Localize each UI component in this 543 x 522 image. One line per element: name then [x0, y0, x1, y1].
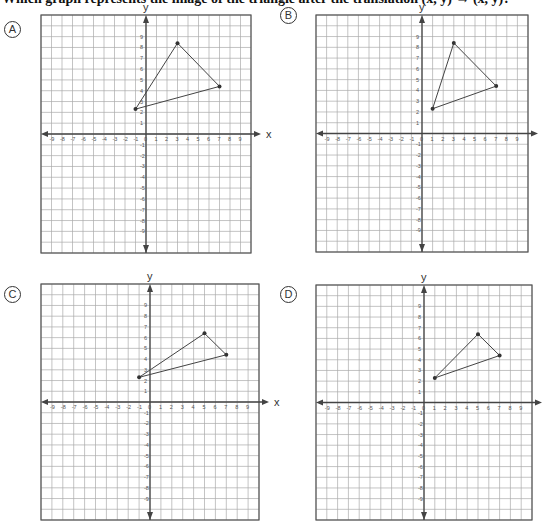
y-tick-label: -4 — [416, 174, 421, 180]
y-tick-label: 6 — [140, 66, 143, 72]
coordinate-grid: xy-9-8-7-6-5-4-3-2-10123456789987654321-… — [41, 15, 251, 253]
y-tick-label: 8 — [418, 314, 421, 320]
y-tick-label: -1 — [418, 410, 423, 416]
y-tick-label: -6 — [144, 463, 149, 469]
y-tick-label: 7 — [416, 55, 419, 61]
vertex-point — [134, 107, 138, 111]
x-tick-label: -1 — [409, 136, 414, 142]
x-tick-label: -8 — [336, 405, 341, 411]
x-tick-label: 8 — [508, 405, 511, 411]
y-tick-label: -7 — [418, 474, 423, 480]
y-tick-label: 2 — [416, 109, 419, 115]
y-tick-label: 8 — [140, 44, 143, 50]
arrow-right-icon — [254, 131, 261, 137]
vertex-point — [224, 353, 228, 357]
x-tick-label: 5 — [197, 136, 200, 142]
x-tick-label: 3 — [452, 136, 455, 142]
y-tick-label: -9 — [416, 227, 421, 233]
y-tick-label: 9 — [140, 34, 143, 40]
arrow-right-icon — [531, 131, 538, 137]
y-tick-label: 6 — [418, 335, 421, 341]
x-tick-label: 1 — [155, 136, 158, 142]
x-tick-label: -9 — [325, 405, 330, 411]
y-tick-label: 4 — [140, 88, 143, 94]
x-tick-label: 1 — [431, 136, 434, 142]
x-tick-label: -9 — [325, 136, 330, 142]
y-tick-label: 4 — [418, 357, 421, 363]
y-tick-label: 1 — [144, 388, 147, 394]
x-tick-label: -6 — [356, 136, 361, 142]
y-tick-label: -5 — [418, 453, 423, 459]
y-tick-label: 2 — [418, 378, 421, 384]
y-tick-label: -3 — [144, 431, 149, 437]
x-tick-label: 8 — [505, 136, 508, 142]
x-tick-label: 5 — [473, 136, 476, 142]
option-badge[interactable]: D — [280, 286, 297, 303]
x-tick-label: 7 — [224, 404, 227, 410]
x-tick-label: 8 — [228, 136, 231, 142]
y-tick-label: -4 — [144, 442, 149, 448]
x-tick-label: 4 — [192, 404, 195, 410]
x-tick-label: 4 — [462, 136, 465, 142]
y-tick-label: 1 — [418, 389, 421, 395]
y-tick-label: 5 — [140, 77, 143, 83]
x-tick-label: -6 — [81, 136, 86, 142]
y-tick-label: -5 — [416, 184, 421, 190]
x-tick-label: -5 — [92, 136, 97, 142]
x-tick-label: -4 — [104, 404, 109, 410]
x-tick-label: 2 — [444, 405, 447, 411]
x-tick-label: 2 — [165, 136, 168, 142]
x-tick-label: -8 — [61, 404, 66, 410]
arrow-up-icon — [421, 285, 427, 293]
x-tick-label: -8 — [60, 136, 65, 142]
coordinate-grid: xy-9-8-7-6-5-4-3-2-10123456789987654321-… — [316, 285, 532, 520]
x-tick-label: -4 — [379, 405, 384, 411]
x-tick-label: 6 — [487, 405, 490, 411]
x-tick-label: -3 — [388, 136, 393, 142]
y-tick-label: 5 — [416, 77, 419, 83]
x-axis-label: x — [266, 128, 272, 140]
x-tick-label: -3 — [390, 405, 395, 411]
vertex-point — [203, 331, 207, 335]
x-tick-label: -4 — [378, 136, 383, 142]
x-tick-label: -7 — [346, 405, 351, 411]
x-tick-label: 6 — [213, 404, 216, 410]
y-tick-label: -6 — [416, 195, 421, 201]
coordinate-grid: xy-9-8-7-6-5-4-3-2-10123456789987654321-… — [41, 284, 259, 520]
x-tick-label: 9 — [519, 405, 522, 411]
y-tick-label: 8 — [144, 313, 147, 319]
x-tick-label: -5 — [368, 405, 373, 411]
x-axis-label: x — [274, 396, 280, 408]
x-tick-label: 4 — [465, 405, 468, 411]
y-tick-label: 9 — [144, 302, 147, 308]
y-tick-label: -9 — [144, 496, 149, 502]
vertex-point — [452, 41, 456, 45]
arrow-down-icon — [143, 245, 149, 253]
y-tick-label: 3 — [418, 367, 421, 373]
arrow-down-icon — [419, 244, 425, 252]
x-tick-label: 3 — [454, 405, 457, 411]
arrow-left-icon — [41, 131, 48, 137]
option-badge[interactable]: B — [280, 7, 297, 24]
y-tick-label: 2 — [140, 109, 143, 115]
y-axis-label: y — [419, 1, 425, 13]
y-tick-label: -7 — [144, 474, 149, 480]
y-tick-label: -3 — [418, 432, 423, 438]
x-tick-label: -2 — [399, 136, 404, 142]
arrow-right-icon — [262, 399, 269, 405]
y-tick-label: 4 — [144, 356, 147, 362]
y-tick-label: -4 — [140, 174, 145, 180]
y-tick-label: -6 — [140, 196, 145, 202]
y-tick-label: -1 — [140, 142, 145, 148]
y-tick-label: -9 — [418, 496, 423, 502]
option-badge[interactable]: A — [4, 21, 21, 38]
y-tick-label: -1 — [144, 410, 149, 416]
x-tick-label: 9 — [246, 404, 249, 410]
x-tick-label: 3 — [176, 136, 179, 142]
y-tick-label: -7 — [140, 207, 145, 213]
y-tick-label: -6 — [418, 464, 423, 470]
y-tick-label: -7 — [416, 206, 421, 212]
x-tick-label: 1 — [159, 404, 162, 410]
option-badge[interactable]: C — [4, 286, 21, 303]
x-tick-label: -6 — [357, 405, 362, 411]
